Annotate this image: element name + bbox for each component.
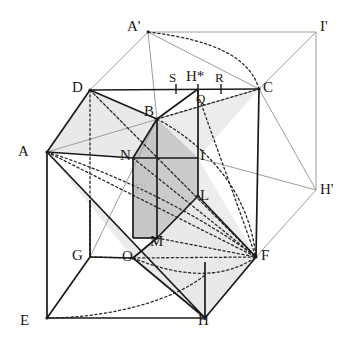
edge-C-Hp [259,89,316,190]
vertex-label-I-prime: I' [320,19,328,34]
vertex-dot-Ap [147,31,150,34]
edge-G-E [47,257,90,318]
vertex-label-H: H [198,313,209,328]
vertex-dot-D [88,88,91,91]
vertex-dot-C [257,87,260,90]
edge-Ap-D [90,32,148,90]
tick-label-H-star: H* [186,69,204,84]
vertex-label-A: A [18,144,29,159]
vertex-label-A-prime: A' [127,19,141,34]
shaded-regions [47,89,259,318]
edge-C-F [256,89,259,257]
vertex-label-G: G [72,248,83,263]
vertex-label-D: D [72,80,83,95]
vertex-dot-B [155,117,158,120]
vertex-dot-E [45,316,48,319]
vertex-label-F: F [261,248,269,263]
vertex-label-C: C [263,80,273,95]
vertex-label-L: L [200,188,209,203]
geometry-figure-container: A D C B E G O H F A' I' H' N I L M Q E' … [0,0,347,342]
vertex-label-Q: Q [196,92,205,105]
vertex-label-O: O [122,249,133,264]
cube-diagram-svg [0,0,347,342]
vertex-label-E-prime: E' [134,182,146,197]
edge-D-C [90,89,259,90]
vertex-label-H-prime: H' [320,182,334,197]
vertex-label-B: B [144,104,154,119]
vertex-label-E: E [20,313,29,328]
vertex-dot-F [254,255,257,258]
vertex-label-N: N [120,148,131,163]
vertex-label-M: M [150,234,163,249]
vertex-label-I: I [200,148,205,163]
tick-label-R: R [215,71,224,84]
vertex-dot-A [45,150,48,153]
tick-label-S: S [169,71,176,84]
